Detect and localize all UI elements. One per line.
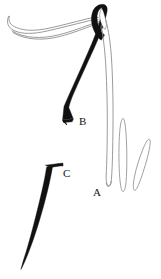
thread-oval-middle: [119, 118, 127, 191]
label-a: A: [93, 187, 101, 198]
label-b: B: [79, 116, 87, 127]
figure-background: [0, 0, 161, 279]
label-c: C: [63, 168, 71, 179]
figure-canvas: A B C: [0, 0, 161, 279]
needle-thread-illustration: [0, 0, 161, 279]
